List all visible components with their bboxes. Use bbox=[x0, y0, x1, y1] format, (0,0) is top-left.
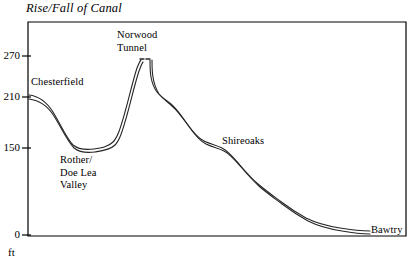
annotation-norwood-line-1: Norwood bbox=[117, 29, 157, 42]
annotation-norwood-line-2: Tunnel bbox=[117, 42, 157, 55]
annotation-rother-line-2: Doe Lea bbox=[60, 167, 97, 180]
annotation-chesterfield: Chesterfield bbox=[31, 76, 84, 89]
y-axis-unit-label: ft bbox=[8, 246, 15, 258]
y-tick-label-0: 0 bbox=[0, 228, 20, 240]
y-tick-label-210: 210 bbox=[0, 90, 20, 102]
annotation-shireoaks: Shireoaks bbox=[222, 135, 264, 148]
canal-profile-figure: Rise/Fall of Canal bbox=[0, 0, 419, 263]
annotation-norwood-tunnel: Norwood Tunnel bbox=[117, 29, 157, 54]
y-axis-ticks bbox=[22, 56, 31, 235]
y-tick-label-270: 270 bbox=[0, 49, 20, 61]
annotation-rother-doe-lea-valley: Rother/ Doe Lea Valley bbox=[60, 154, 97, 192]
annotation-rother-line-3: Valley bbox=[60, 179, 97, 192]
profile-upper-left bbox=[29, 60, 141, 150]
chart-plot-area bbox=[0, 0, 419, 263]
plot-border bbox=[28, 22, 406, 236]
annotation-bawtry: Bawtry bbox=[371, 224, 403, 237]
annotation-rother-line-1: Rother/ bbox=[60, 154, 97, 167]
axis-frame bbox=[28, 22, 406, 236]
y-tick-label-150: 150 bbox=[0, 141, 20, 153]
